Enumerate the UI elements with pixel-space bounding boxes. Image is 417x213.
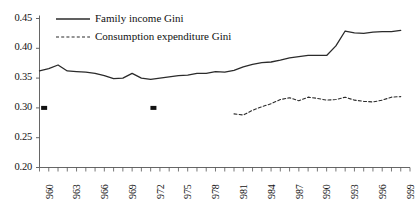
y-axis-label-0-20: 0.20	[0, 161, 32, 172]
y-axis-label-0-30: 0.30	[0, 101, 32, 112]
series-group	[40, 30, 401, 115]
y-axis-label-0-40: 0.40	[0, 41, 32, 52]
x-axis-label-969: 969	[127, 184, 138, 199]
x-axis-label-987: 987	[294, 184, 305, 199]
y-axis-label-0-45: 0.45	[0, 12, 32, 23]
square-marker-1	[41, 106, 47, 110]
legend-label-family-income-gini: Family income Gini	[95, 12, 184, 24]
x-axis-label-960: 960	[44, 184, 55, 199]
series-line-consumption-expenditure-gini	[234, 97, 401, 115]
x-axis-label-984: 984	[266, 184, 277, 199]
x-axis-label-972: 972	[155, 184, 166, 199]
marker-group	[41, 106, 156, 110]
x-axis-label-963: 963	[71, 184, 82, 199]
x-axis-label-981: 981	[238, 184, 249, 199]
gini-line-chart: 0.450.400.350.300.250.20 960963966969972…	[0, 0, 417, 213]
x-axis-label-975: 975	[182, 184, 193, 199]
x-axis-label-966: 966	[99, 184, 110, 199]
y-axis-label-0-35: 0.35	[0, 71, 32, 82]
legend-sample-lines	[56, 19, 90, 37]
x-axis-label-993: 993	[349, 184, 360, 199]
x-axis-label-996: 996	[377, 184, 388, 199]
x-axis-label-999: 999	[405, 184, 416, 199]
x-axis-label-990: 990	[321, 184, 332, 199]
x-axis-label-978: 978	[210, 184, 221, 199]
y-axis-label-0-25: 0.25	[0, 131, 32, 142]
legend-label-consumption-expenditure-gini: Consumption expenditure Gini	[95, 30, 231, 42]
square-marker-2	[150, 106, 156, 110]
